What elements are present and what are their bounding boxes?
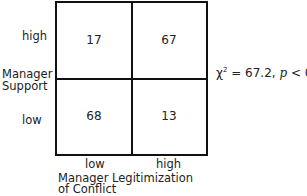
p-symbol: p (279, 66, 287, 80)
y-axis-title: Manager Support (2, 68, 52, 92)
cell-high-support-low-legitimization: 17 (57, 33, 131, 47)
x-axis-title: Manager Legitimization of Conflict (58, 173, 193, 195)
cell-low-support-high-legitimization: 13 (132, 109, 206, 123)
contingency-grid: 17 67 68 13 (55, 1, 208, 156)
y-tick-high: high (22, 29, 47, 43)
x-tick-low: low (85, 157, 105, 171)
x-tick-high: high (156, 157, 181, 171)
cell-low-support-low-legitimization: 68 (57, 109, 131, 123)
p-value: < 0.01 (287, 66, 307, 80)
y-tick-low: low (22, 113, 42, 127)
grid-horizontal-divider (57, 78, 206, 80)
y-axis-title-line2: Support (2, 80, 52, 92)
chi-square-statistic: χ2 = 67.2, p < 0.01 (216, 66, 307, 80)
chi-symbol: χ (216, 66, 223, 80)
chi-value: = 67.2, (227, 66, 279, 80)
x-axis-title-line2: of Conflict (58, 184, 193, 195)
cell-high-support-high-legitimization: 67 (132, 33, 206, 47)
